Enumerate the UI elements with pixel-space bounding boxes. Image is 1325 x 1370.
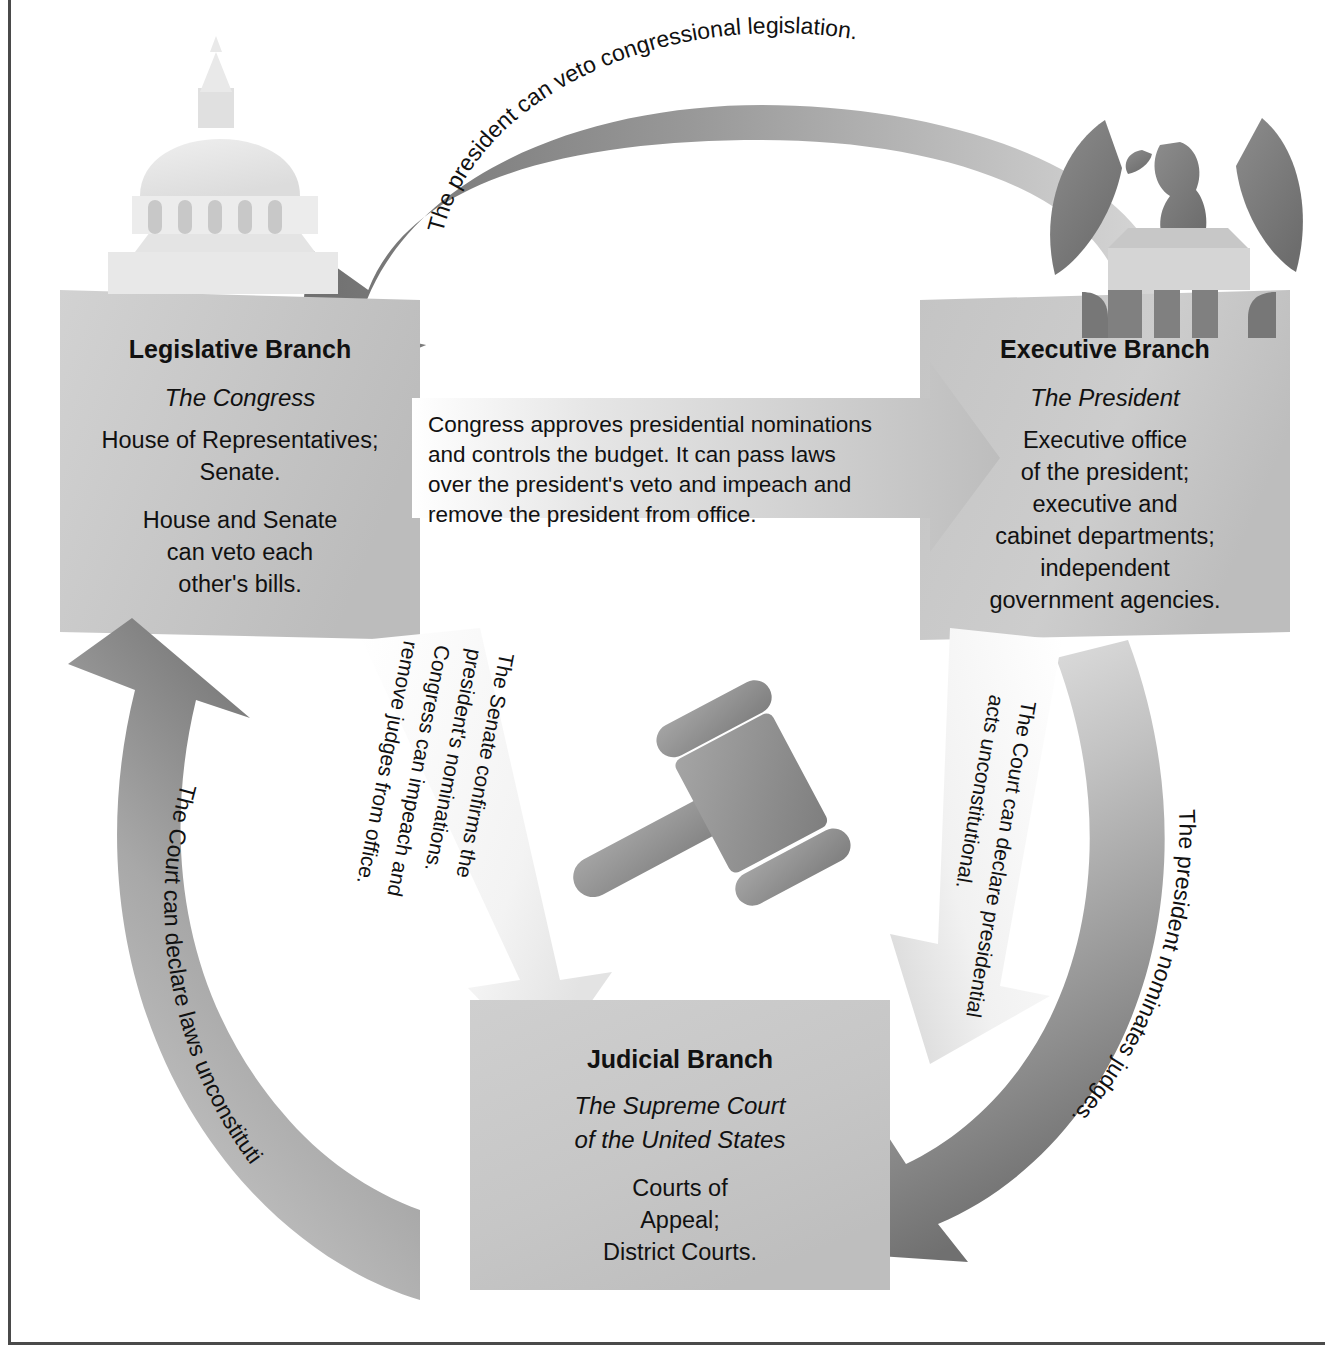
legislative-line-3: House and Senate xyxy=(143,507,338,533)
executive-line-4: independent xyxy=(1040,555,1170,581)
gavel-icon xyxy=(529,674,857,976)
legislative-line-0: House of Representatives; xyxy=(102,427,379,453)
arrow-congress-line-1: and controls the budget. It can pass law… xyxy=(428,442,836,467)
arrow-congress-line-2: over the president's veto and impeach an… xyxy=(428,472,851,497)
diagram-canvas: The president can veto congressional leg… xyxy=(0,0,1325,1370)
judicial-line-2: District Courts. xyxy=(603,1239,757,1265)
judicial-title: Judicial Branch xyxy=(587,1045,773,1073)
executive-subtitle: The President xyxy=(1030,384,1181,411)
legislative-line-1: Senate. xyxy=(199,459,280,485)
legislative-line-5: other's bills. xyxy=(178,571,301,597)
legislative-branch-box[interactable]: Legislative Branch The Congress House of… xyxy=(60,36,420,640)
capitol-dome-icon xyxy=(108,36,338,294)
legislative-line-4: can veto each xyxy=(167,539,313,565)
diagram-page: The president can veto congressional leg… xyxy=(0,0,1325,1370)
judicial-line-0: Courts of xyxy=(632,1175,728,1201)
legislative-subtitle: The Congress xyxy=(165,384,316,411)
judicial-branch-box[interactable]: Judicial Branch The Supreme Court of the… xyxy=(470,1000,890,1290)
executive-line-2: executive and xyxy=(1032,491,1177,517)
executive-line-1: of the president; xyxy=(1021,459,1190,485)
executive-line-0: Executive office xyxy=(1023,427,1187,453)
executive-line-3: cabinet departments; xyxy=(995,523,1214,549)
executive-title: Executive Branch xyxy=(1000,335,1210,363)
legislative-title: Legislative Branch xyxy=(129,335,351,363)
arrow-congress-line-3: remove the president from office. xyxy=(428,502,757,527)
judicial-subtitle-2: of the United States xyxy=(575,1126,786,1153)
arrow-congress-approves: Congress approves presidential nominatio… xyxy=(412,362,1000,552)
executive-line-5: government agencies. xyxy=(989,587,1220,613)
arrow-court-declare-acts: The Court can declare presidential acts … xyxy=(890,628,1062,1064)
judicial-subtitle-1: The Supreme Court xyxy=(575,1092,787,1119)
eagle-icon xyxy=(1050,118,1303,338)
executive-branch-box[interactable]: Executive Branch The President Executive… xyxy=(920,118,1303,640)
arrow-congress-line-0: Congress approves presidential nominatio… xyxy=(428,412,872,437)
judicial-line-1: Appeal; xyxy=(640,1207,720,1233)
